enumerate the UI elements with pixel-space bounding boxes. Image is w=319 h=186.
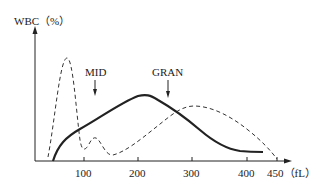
x-tick-400: 400	[238, 167, 255, 179]
x-ticks	[84, 157, 277, 161]
x-axis-arrow-icon	[284, 159, 292, 164]
y-axis-label: WBC（%）	[14, 15, 70, 27]
y-axis-arrow-icon	[33, 26, 38, 34]
gran-arrow-icon	[166, 91, 170, 98]
x-tick-450: 450（fL）	[267, 167, 316, 179]
wbc-histogram-chart: WBC（%） 100 200 300 400 450（fL） MID GRAN	[0, 0, 319, 186]
x-tick-100: 100	[75, 167, 92, 179]
solid-curve	[53, 95, 263, 161]
x-tick-200: 200	[129, 167, 146, 179]
mid-label: MID	[85, 66, 106, 78]
gran-label: GRAN	[152, 66, 183, 78]
x-tick-300: 300	[183, 167, 200, 179]
mid-arrow-icon	[93, 89, 97, 96]
